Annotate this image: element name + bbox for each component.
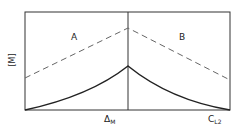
region-label-a: A [71, 32, 78, 42]
phase-diagram: A B [M] ΔM CL2 [0, 0, 243, 131]
x-tick-cl2: CL2 [208, 114, 222, 125]
y-axis-label: [M] [8, 53, 17, 66]
region-label-b: B [179, 32, 185, 42]
x-tick-delta-m: ΔM [104, 114, 115, 125]
